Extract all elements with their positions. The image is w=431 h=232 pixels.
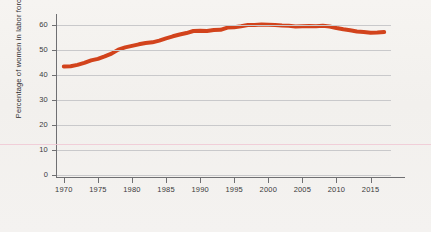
x-tick-2015: [371, 178, 372, 183]
gridline-y-60: [57, 25, 391, 26]
y-tick-label-0: 0: [28, 170, 48, 179]
x-tick-1970: [64, 178, 65, 183]
x-axis-line: [56, 177, 405, 178]
x-tick-1975: [98, 178, 99, 183]
y-tick-20: [52, 125, 57, 126]
y-tick-label-40: 40: [28, 70, 48, 79]
x-tick-1980: [132, 178, 133, 183]
y-tick-label-50: 50: [28, 45, 48, 54]
gridline-y-50: [57, 50, 391, 51]
gridline-y-30: [57, 100, 391, 101]
x-tick-label-2005: 2005: [287, 185, 317, 194]
x-tick-1985: [166, 178, 167, 183]
x-tick-label-2000: 2000: [253, 185, 283, 194]
y-tick-label-10: 10: [28, 145, 48, 154]
x-tick-label-1975: 1975: [83, 185, 113, 194]
x-tick-label-1970: 1970: [49, 185, 79, 194]
gridline-y-20: [57, 125, 391, 126]
gridline-y-0: [57, 175, 391, 176]
x-tick-label-1985: 1985: [151, 185, 181, 194]
x-tick-label-2010: 2010: [321, 185, 351, 194]
y-tick-label-60: 60: [28, 20, 48, 29]
chart-container: Percentage of women in labor force 01020…: [0, 0, 431, 232]
y-tick-50: [52, 50, 57, 51]
y-tick-label-20: 20: [28, 120, 48, 129]
x-tick-label-1990: 1990: [185, 185, 215, 194]
plot-area: [57, 17, 391, 175]
x-tick-label-1980: 1980: [117, 185, 147, 194]
x-tick-1990: [200, 178, 201, 183]
x-tick-2000: [268, 178, 269, 183]
y-tick-label-30: 30: [28, 95, 48, 104]
x-tick-1995: [234, 178, 235, 183]
y-axis-line: [56, 14, 57, 178]
x-tick-2010: [336, 178, 337, 183]
y-tick-30: [52, 100, 57, 101]
gridline-y-40: [57, 75, 391, 76]
line-series-women-labor-force: [57, 17, 391, 175]
y-tick-40: [52, 75, 57, 76]
y-axis-title: Percentage of women in labor force: [14, 0, 23, 127]
x-tick-label-1995: 1995: [219, 185, 249, 194]
x-tick-2005: [302, 178, 303, 183]
y-tick-10: [52, 150, 57, 151]
y-tick-60: [52, 25, 57, 26]
x-tick-label-2015: 2015: [356, 185, 386, 194]
scan-artifact-line: [0, 144, 431, 145]
y-tick-0: [52, 175, 57, 176]
gridline-y-10: [57, 150, 391, 151]
